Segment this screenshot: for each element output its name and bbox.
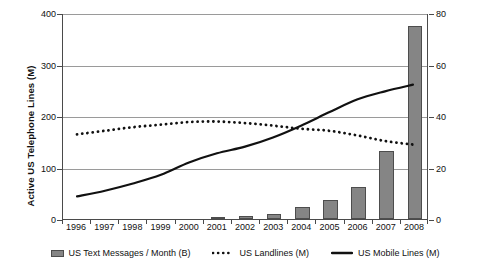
y-axis-right-tick-label: 80 [436, 9, 446, 19]
x-axis-tick-label: 2001 [207, 222, 227, 232]
x-axis-tick-label: 2000 [179, 222, 199, 232]
y-axis-right-tick-mark [429, 117, 434, 118]
y-axis-right-tick-label: 40 [436, 112, 446, 122]
y-axis-left-tick-label: 0 [51, 215, 56, 225]
legend-label: US Mobile Lines (M) [358, 248, 440, 258]
line-series-layer [63, 14, 427, 219]
chart-container: Active US Telephone Lines (M) US Mobile … [0, 0, 481, 272]
legend-label: US Text Messages / Month (B) [69, 248, 191, 258]
legend-item[interactable]: US Landlines (M) [212, 248, 309, 258]
x-axis-tick-label: 2006 [348, 222, 368, 232]
x-axis-tick-label: 2008 [404, 222, 424, 232]
x-axis-tick-label: 2003 [263, 222, 283, 232]
legend-solid-line-swatch-icon [331, 249, 353, 257]
x-axis-tick-label: 1996 [66, 222, 86, 232]
y-axis-left-tick-label: 400 [41, 9, 56, 19]
y-axis-right-tick-label: 60 [436, 61, 446, 71]
line-us-landlines [77, 121, 413, 144]
y-axis-right-tick-mark [429, 220, 434, 221]
y-axis-right-tick-mark [429, 66, 434, 67]
chart-legend: US Text Messages / Month (B)US Landlines… [62, 243, 428, 263]
legend-label: US Landlines (M) [239, 248, 309, 258]
y-axis-left-tick-label: 100 [41, 164, 56, 174]
x-axis-tick-label: 1997 [94, 222, 114, 232]
y-axis-right-tick-marks [428, 14, 434, 220]
y-axis-right-tick-mark [429, 169, 434, 170]
y-axis-right-tick-mark [429, 14, 434, 15]
y-axis-right-tick-label: 0 [436, 215, 441, 225]
x-axis-tick-label: 2002 [235, 222, 255, 232]
y-axis-right-tick-labels: 020406080 [436, 14, 460, 220]
legend-item[interactable]: US Text Messages / Month (B) [51, 248, 191, 258]
x-axis-tick-label: 1998 [122, 222, 142, 232]
legend-bar-swatch-icon [51, 250, 64, 257]
legend-dotted-line-swatch-icon [212, 249, 234, 257]
x-axis-tick-label: 2007 [376, 222, 396, 232]
y-axis-left-tick-label: 300 [41, 61, 56, 71]
y-axis-left-tick-labels: 0100200300400 [36, 14, 56, 220]
x-axis-tick-label: 2004 [291, 222, 311, 232]
x-axis-tick-label: 2005 [319, 222, 339, 232]
y-axis-left-tick-label: 200 [41, 112, 56, 122]
y-axis-left-title: Active US Telephone Lines (M) [25, 46, 36, 226]
x-axis-tick-labels: 1996199719981999200020012002200320042005… [62, 222, 428, 238]
line-us-mobile-lines [77, 85, 413, 197]
x-axis-tick-label: 1999 [151, 222, 171, 232]
legend-item[interactable]: US Mobile Lines (M) [331, 248, 440, 258]
plot-area [62, 14, 428, 220]
y-axis-right-tick-label: 20 [436, 164, 446, 174]
